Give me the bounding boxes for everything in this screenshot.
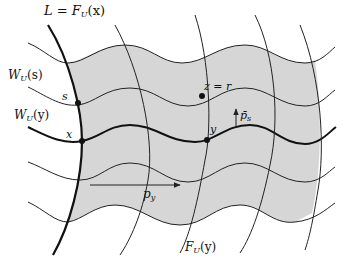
label-L: L = FU(x) [44, 4, 105, 19]
shaded-region [68, 45, 320, 225]
curve-L [48, 25, 82, 255]
label-p-s: p̄s [240, 110, 251, 123]
label-F-y: FU(y) [185, 241, 216, 255]
point-s [75, 100, 81, 106]
label-W-s: WU(s) [8, 69, 43, 83]
label-x: x [66, 129, 72, 140]
label-y: y [210, 124, 216, 135]
label-W-y: WU(y) [14, 109, 49, 123]
point-x [79, 138, 85, 144]
label-z-equals-r: z = r [204, 81, 231, 92]
label-s: s [62, 91, 68, 102]
wave-top [28, 43, 335, 63]
label-p-y: py [143, 188, 155, 202]
point-y [204, 137, 210, 143]
foliation-diagram [0, 0, 345, 261]
point-z-r [199, 93, 205, 99]
